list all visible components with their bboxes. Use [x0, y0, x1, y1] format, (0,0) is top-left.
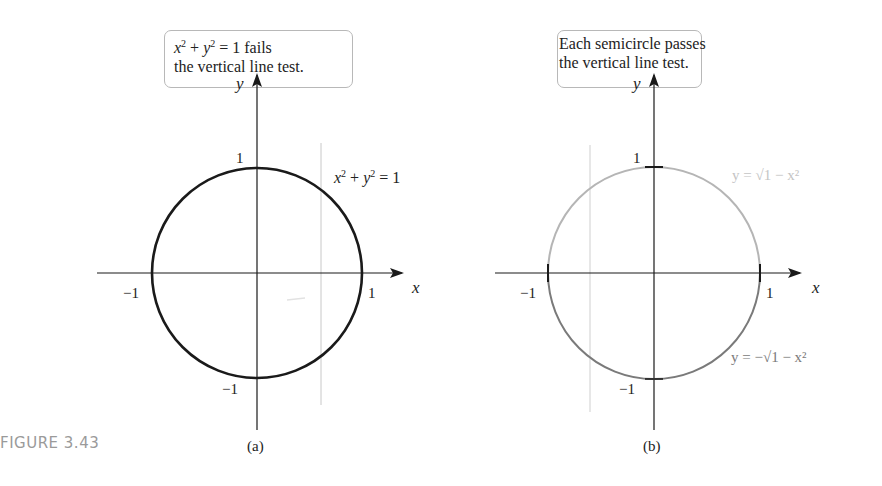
upper-semicircle-label: y = √1 − x²: [732, 167, 799, 184]
x-axis-label-a: x: [412, 278, 420, 298]
lower-semicircle-label: y = −√1 − x²: [731, 349, 807, 366]
curve-label-a: x2 + y2 = 1: [334, 168, 400, 187]
panel-b: [495, 75, 800, 430]
tick-label-x-neg-a: −1: [123, 285, 139, 302]
tick-label-y-neg-a: −1: [222, 381, 238, 398]
tick-label-y-neg-b: −1: [619, 381, 635, 398]
tick-label-x-pos-a: 1: [368, 285, 376, 302]
y-axis-label-a: y: [236, 74, 244, 94]
tick-label-x-neg-b: −1: [520, 285, 536, 302]
y-axis-label-b: y: [633, 74, 641, 94]
panel-caption-b: (b): [643, 438, 661, 455]
x-axis-label-b: x: [812, 278, 820, 298]
figure-graphics: [0, 0, 882, 486]
figure-label: FIGURE 3.43: [0, 434, 99, 452]
panel-a: [97, 75, 402, 430]
tick-label-y-pos-a: 1: [236, 150, 244, 167]
smudge: [287, 298, 305, 300]
tick-label-y-pos-b: 1: [633, 150, 641, 167]
tick-label-x-pos-b: 1: [766, 285, 774, 302]
panel-caption-a: (a): [247, 438, 264, 455]
